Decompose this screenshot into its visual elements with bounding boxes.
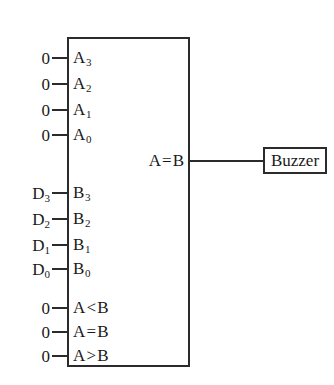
wire-stub-cascade-gt <box>52 355 68 357</box>
wire-stub-a0 <box>52 134 68 136</box>
source-label-d1: D1 <box>20 237 50 254</box>
buzzer-label: Buzzer <box>271 152 319 169</box>
wire-stub-b1 <box>52 244 68 246</box>
pin-label-a2: A2 <box>73 75 91 92</box>
wire-stub-b3 <box>52 192 68 194</box>
wire-stub-cascade-eq <box>52 331 68 333</box>
source-label-a2: 0 <box>28 76 50 93</box>
output-operand-b: B <box>173 151 184 170</box>
source-label-d2: D2 <box>20 211 50 228</box>
source-subscript-d2: 2 <box>45 218 51 230</box>
pin-subscript-a0: 0 <box>86 133 92 145</box>
source-label-cascade-gt: 0 <box>28 348 50 365</box>
output-label-a-equals-b: A=B <box>116 152 184 169</box>
cascade-lt-operator: < <box>85 298 97 317</box>
buzzer-block: Buzzer <box>263 147 327 174</box>
wire-stub-a3 <box>52 57 68 59</box>
source-subscript-d1: 1 <box>45 244 51 256</box>
source-letter-d2: D <box>32 210 44 229</box>
pin-label-cascade-eq: A=B <box>73 323 109 340</box>
cascade-lt-operand-a: A <box>73 298 85 317</box>
pin-letter-b2: B <box>73 209 85 228</box>
source-label-cascade-eq: 0 <box>28 324 50 341</box>
wire-stub-b2 <box>52 218 68 220</box>
source-subscript-d3: 3 <box>45 192 51 204</box>
pin-label-a0: A0 <box>73 126 91 143</box>
cascade-eq-operand-a: A <box>73 322 85 341</box>
pin-label-b1: B1 <box>73 236 90 253</box>
logic-diagram: 0 0 0 0 A3 A2 A1 A0 D3 D2 D1 D0 B3 B2 B1 <box>0 0 334 385</box>
pin-label-cascade-gt: A>B <box>73 347 109 364</box>
source-label-cascade-lt: 0 <box>28 300 50 317</box>
cascade-eq-operator: = <box>85 322 97 341</box>
source-letter-d0: D <box>32 260 44 279</box>
pin-subscript-b1: 1 <box>85 243 91 255</box>
pin-label-b2: B2 <box>73 210 90 227</box>
pin-subscript-a1: 1 <box>86 108 92 120</box>
pin-label-cascade-lt: A<B <box>73 299 109 316</box>
source-label-a0: 0 <box>28 127 50 144</box>
pin-letter-a2: A <box>73 74 85 93</box>
source-label-d0: D0 <box>20 261 50 278</box>
pin-subscript-b3: 3 <box>85 191 91 203</box>
pin-letter-b0: B <box>73 259 85 278</box>
cascade-gt-operand-b: B <box>97 346 109 365</box>
pin-letter-b3: B <box>73 183 85 202</box>
pin-subscript-a2: 2 <box>86 82 92 94</box>
wire-stub-a1 <box>52 109 68 111</box>
pin-label-b0: B0 <box>73 260 90 277</box>
source-label-d3: D3 <box>20 185 50 202</box>
pin-letter-b1: B <box>73 235 85 254</box>
pin-label-b3: B3 <box>73 184 90 201</box>
output-operand-a: A <box>149 151 161 170</box>
source-label-a3: 0 <box>28 50 50 67</box>
cascade-gt-operand-a: A <box>73 346 85 365</box>
wire-stub-b0 <box>52 268 68 270</box>
pin-label-a3: A3 <box>73 49 91 66</box>
pin-subscript-b0: 0 <box>85 267 91 279</box>
wire-output-to-buzzer <box>189 160 264 162</box>
pin-subscript-b2: 2 <box>85 217 91 229</box>
pin-letter-a1: A <box>73 100 85 119</box>
source-letter-d1: D <box>32 236 44 255</box>
output-operator: = <box>161 151 173 170</box>
pin-letter-a3: A <box>73 48 85 67</box>
wire-stub-a2 <box>52 83 68 85</box>
source-subscript-d0: 0 <box>45 268 51 280</box>
pin-subscript-a3: 3 <box>86 56 92 68</box>
wire-stub-cascade-lt <box>52 307 68 309</box>
cascade-lt-operand-b: B <box>97 298 109 317</box>
cascade-eq-operand-b: B <box>97 322 109 341</box>
source-letter-d3: D <box>32 184 44 203</box>
pin-label-a1: A1 <box>73 101 91 118</box>
pin-letter-a0: A <box>73 125 85 144</box>
source-label-a1: 0 <box>28 102 50 119</box>
cascade-gt-operator: > <box>85 346 97 365</box>
